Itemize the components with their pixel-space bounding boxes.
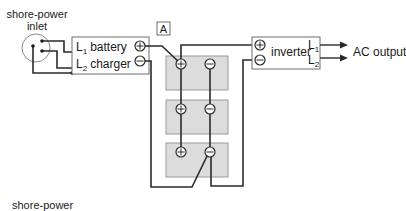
footer-shore-power-label: shore-power [12,199,73,211]
battery-1 [166,56,228,90]
charger-positive-terminal [135,41,145,51]
battery-3 [166,143,228,177]
inverter-negative-terminal [255,55,265,65]
shore-power-inlet-icon [22,34,50,62]
arrowheads [340,42,348,62]
inverter-label: inverter [271,45,311,59]
battery-3-negative-terminal [205,147,215,157]
battery-2-positive-terminal [176,104,186,114]
ac-output-arrows [320,45,341,58]
battery-3-positive-terminal [176,147,186,157]
arrow-l2-icon [340,55,348,62]
wiring-diagram: shore-power inlet L1battery L2charger A [0,0,406,211]
inlet-pins [31,39,74,75]
battery-1-negative-terminal [205,59,215,69]
battery-1-positive-terminal [176,59,186,69]
charger-negative-terminal [135,56,145,66]
inlet-label-line2: inlet [27,20,47,32]
battery-2 [166,100,228,134]
inlet-label-line1: shore-power [6,8,67,20]
inverter-positive-terminal [255,40,265,50]
ac-output-label: AC output [353,45,406,59]
label-a: A [160,23,168,35]
battery-2-negative-terminal [205,104,215,114]
inlet-wires [33,41,72,73]
arrow-l1-icon [340,42,348,49]
